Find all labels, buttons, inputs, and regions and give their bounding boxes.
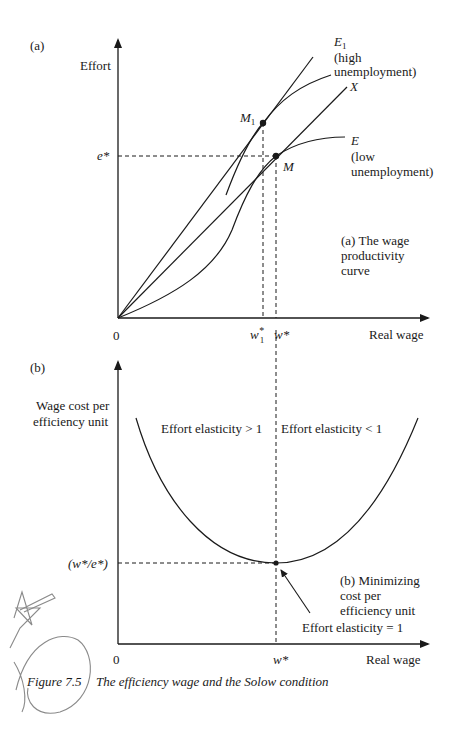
m1-label: M1 <box>240 110 255 130</box>
ray-x <box>118 87 347 318</box>
curve-e <box>118 137 345 318</box>
panel-a-x-axis-label: Real wage <box>369 327 424 342</box>
cost-curve <box>136 418 418 563</box>
panel-b-axes <box>118 362 428 644</box>
point-m1 <box>260 120 265 125</box>
panel-a-y-axis-label: Effort <box>80 58 111 73</box>
ray-x-label: X <box>350 79 358 94</box>
elasticity-arrow <box>281 570 310 613</box>
point-min <box>273 560 278 565</box>
panel-b-x-axis-label: Real wage <box>366 652 421 667</box>
figure-number: Figure 7.5 <box>27 674 81 690</box>
region-left-label: Effort elasticity > 1 <box>161 421 262 436</box>
panel-a-title-line-2: productivity <box>341 248 405 263</box>
curve-e1 <box>226 75 331 195</box>
panel-a-axes <box>118 40 428 318</box>
curve-e1-note-1: (high <box>334 50 361 65</box>
panel-a-title-line-1: (a) The wage <box>341 233 409 248</box>
region-right-label: Effort elasticity < 1 <box>281 421 382 436</box>
panel-a-guides <box>118 123 276 318</box>
w-star-label-b: w* <box>273 652 288 667</box>
panel-b-label: (b) <box>30 360 45 375</box>
w1-star-label: w*1 <box>250 327 259 342</box>
panel-a-curves <box>118 57 347 318</box>
panel-b-title-line-2: cost per <box>340 588 381 603</box>
panel-b-y-axis-label-2: efficiency unit <box>33 414 108 429</box>
panel-a-title-line-3: curve <box>341 263 370 278</box>
curve-e-label: E <box>351 133 359 148</box>
elasticity-equals-one-label: Effort elasticity = 1 <box>302 620 403 635</box>
w-star-label-a: w* <box>274 327 289 342</box>
figure-caption: The efficiency wage and the Solow condit… <box>96 674 329 690</box>
pencil-scribble <box>10 592 90 713</box>
panel-b-guides <box>118 330 276 644</box>
point-m <box>273 153 278 158</box>
panel-b-title-line-1: (b) Minimizing <box>340 573 420 588</box>
min-value-label: (w*/e*) <box>68 556 108 571</box>
curve-e-note-2: unemployment) <box>351 164 433 179</box>
ray-through-m1 <box>118 57 313 318</box>
panel-b-y-axis-label-1: Wage cost per <box>36 398 109 413</box>
panel-b-title-line-3: efficiency unit <box>340 603 415 618</box>
panel-a-origin: 0 <box>113 328 120 343</box>
curve-e-note-1: (low <box>351 149 375 164</box>
panel-a-label: (a) <box>30 38 44 53</box>
curve-e1-note-2: unemployment) <box>334 64 416 79</box>
panel-b-origin: 0 <box>113 652 120 667</box>
e-star-label: e* <box>97 148 109 163</box>
m-label: M <box>283 159 294 174</box>
